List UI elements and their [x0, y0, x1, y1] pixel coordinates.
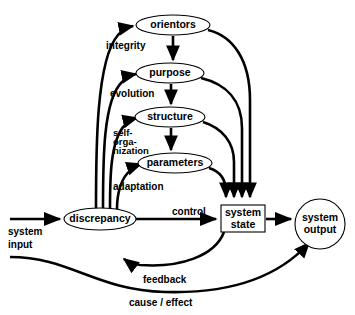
- node-structure-label: structure: [147, 110, 193, 122]
- label-adaptation: adaptation: [113, 181, 164, 192]
- label-system-input-line1: system: [8, 226, 43, 237]
- label-integrity: integrity: [106, 40, 146, 51]
- node-parameters-label: parameters: [147, 156, 204, 168]
- node-purpose-label: purpose: [149, 66, 191, 78]
- edge-orientors-to-state: [208, 30, 250, 197]
- label-cause-effect: cause / effect: [129, 297, 193, 308]
- node-system-output-label-line1: system: [302, 211, 338, 223]
- label-evolution: evolution: [110, 88, 154, 99]
- label-feedback: feedback: [143, 274, 187, 285]
- label-self-organization-line3: nization: [113, 145, 149, 156]
- edge-parameters-to-state: [209, 168, 226, 197]
- label-control: control: [172, 206, 206, 217]
- edge-state-to-discrepancy-feedback: [124, 232, 224, 265]
- label-system-input-line2: input: [8, 239, 33, 250]
- diagram-canvas: orientors purpose structure parameters d…: [0, 0, 355, 315]
- edge-purpose-to-state: [201, 78, 242, 197]
- node-system-output-label-line2: output: [304, 223, 337, 235]
- diagram-svg: orientors purpose structure parameters d…: [0, 0, 355, 315]
- node-discrepancy-label: discrepancy: [69, 212, 130, 224]
- node-system-state-label-line2: state: [231, 218, 256, 230]
- node-orientors-label: orientors: [150, 18, 196, 30]
- node-system-state-label-line1: system: [225, 206, 261, 218]
